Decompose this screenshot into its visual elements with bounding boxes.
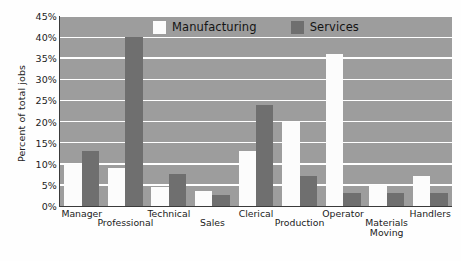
x-tick-label: Operator [322,209,364,219]
x-tick-label: Materials Moving [365,218,408,237]
bar-services [212,195,229,206]
x-axis-line [59,206,452,207]
x-tick-label: Clerical [239,209,274,219]
x-tick-label: Handlers [409,209,450,219]
y-axis-tick-labels: 0%5%10%15%20%25%30%35%40%45% [24,16,57,206]
legend-item-manufacturing: Manufacturing [153,20,257,34]
x-tick-label: Sales [200,218,225,228]
bar-manufacturing [195,191,212,206]
x-tick-label: Production [275,218,324,228]
plot-area [60,16,452,206]
legend-swatch-services [291,21,304,34]
legend-label-services: Services [310,20,359,34]
bar-manufacturing [151,187,168,206]
y-tick-label: 20% [36,116,57,127]
bar-group [321,16,365,206]
bar-groups [60,16,452,206]
bar-services [125,37,142,206]
bar-group [191,16,235,206]
bar-manufacturing [282,122,299,206]
legend-swatch-manufacturing [153,21,166,34]
y-tick-label: 45% [36,11,57,22]
bar-services [300,176,317,206]
x-axis-tick-labels: ManagerProfessionalTechnicalSalesClerica… [60,208,452,254]
legend-label-manufacturing: Manufacturing [172,20,257,34]
bar-chart: Percent of total jobs 0%5%10%15%20%25%30… [0,0,461,261]
bar-group [60,16,104,206]
x-tick-label: Professional [97,218,153,228]
bar-group [409,16,453,206]
x-tick-label: Technical [148,209,191,219]
bar-manufacturing [108,168,125,206]
bar-group [234,16,278,206]
bar-group [365,16,409,206]
bar-manufacturing [326,54,343,206]
bar-manufacturing [64,164,81,206]
y-tick-label: 35% [36,53,57,64]
bar-services [387,193,404,206]
bar-services [256,105,273,206]
bar-manufacturing [369,185,386,206]
y-tick-label: 10% [36,158,57,169]
y-tick-label: 30% [36,74,57,85]
bar-services [430,193,447,206]
bar-services [343,193,360,206]
y-tick-label: 0% [42,201,57,212]
bar-group [278,16,322,206]
legend: Manufacturing Services [60,17,452,37]
legend-item-services: Services [291,20,359,34]
bar-group [104,16,148,206]
bar-services [82,151,99,206]
y-tick-label: 15% [36,137,57,148]
bar-manufacturing [239,151,256,206]
y-tick-label: 25% [36,95,57,106]
bar-manufacturing [413,176,430,206]
y-tick-label: 5% [42,179,57,190]
y-axis-line [59,16,60,207]
bar-group [147,16,191,206]
x-tick-label: Manager [61,209,102,219]
y-tick-label: 40% [36,32,57,43]
bar-services [169,174,186,206]
